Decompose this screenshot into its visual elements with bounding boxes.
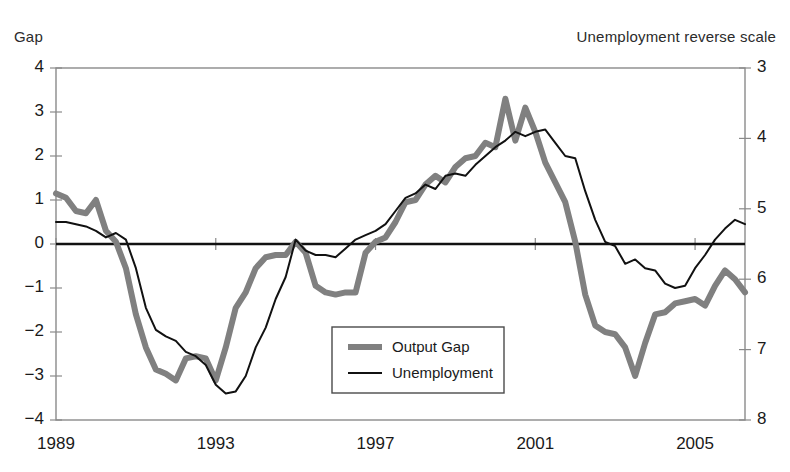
legend-box: [332, 327, 504, 393]
right-axis-title: Unemployment reverse scale: [577, 28, 776, 45]
left-axis-tick-label: −4: [10, 409, 44, 429]
left-axis-title: Gap: [14, 28, 43, 45]
x-axis-tick-label: 1997: [341, 434, 411, 454]
x-axis-tick-label: 2005: [660, 434, 730, 454]
right-axis-tick-label: 3: [757, 57, 790, 77]
right-axis-tick-label: 5: [757, 198, 790, 218]
left-axis-tick-label: 1: [10, 189, 44, 209]
right-axis-tick-label: 8: [757, 409, 790, 429]
right-axis-tick-label: 4: [757, 127, 790, 147]
x-axis-tick-label: 1989: [21, 434, 91, 454]
left-axis-tick-label: 3: [10, 101, 44, 121]
left-axis-tick-label: −3: [10, 365, 44, 385]
left-axis-tick-label: 4: [10, 57, 44, 77]
legend-label-output-gap: Output Gap: [392, 338, 470, 355]
output-gap-unemployment-chart: Gap Unemployment reverse scale Output Ga…: [0, 0, 790, 472]
left-axis-tick-label: 2: [10, 145, 44, 165]
right-axis-tick-label: 6: [757, 268, 790, 288]
plot-area: Output GapUnemployment: [0, 0, 790, 472]
right-axis-tick-label: 7: [757, 339, 790, 359]
legend-label-unemployment: Unemployment: [392, 364, 494, 381]
x-axis-tick-label: 1993: [181, 434, 251, 454]
left-axis-tick-label: 0: [10, 233, 44, 253]
left-axis-tick-label: −1: [10, 277, 44, 297]
x-axis-tick-label: 2001: [500, 434, 570, 454]
left-axis-tick-label: −2: [10, 321, 44, 341]
